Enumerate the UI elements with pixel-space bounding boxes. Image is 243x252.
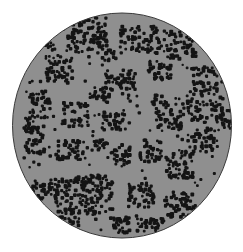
bacterial-cell <box>91 134 94 137</box>
bacterial-cell <box>147 201 151 205</box>
bacterial-cell <box>121 118 124 121</box>
bacterial-cell <box>54 197 58 201</box>
bacterial-cell <box>43 116 47 120</box>
bacterial-cell <box>129 81 133 85</box>
bacterial-cell <box>202 136 206 140</box>
bacterial-cell <box>132 202 135 205</box>
bacterial-cell <box>152 218 155 221</box>
bacterial-cell <box>176 115 180 119</box>
bacterial-cell <box>138 35 142 39</box>
bacterial-cell <box>94 92 97 95</box>
bacterial-cell <box>105 115 109 119</box>
bacterial-cell <box>62 66 65 69</box>
bacterial-cell <box>104 24 107 27</box>
bacterial-cell <box>51 231 54 234</box>
bacterial-cell <box>180 157 183 160</box>
bacterial-cell <box>48 69 51 72</box>
bacterial-cell <box>220 109 224 113</box>
bacterial-cell <box>146 184 149 187</box>
bacterial-cell <box>84 209 88 213</box>
bacterial-cell <box>96 188 99 191</box>
bacterial-cell <box>122 109 125 112</box>
bacterial-cell <box>27 127 31 131</box>
bacterial-cell <box>160 95 164 99</box>
bacterial-cell <box>57 144 61 148</box>
bacterial-cell <box>57 140 61 144</box>
bacterial-cell <box>119 32 123 35</box>
bacterial-cell <box>120 80 123 83</box>
bacterial-cell <box>194 216 197 219</box>
bacterial-cell <box>179 34 183 38</box>
bacterial-cell <box>51 182 54 185</box>
bacterial-cell <box>128 187 131 190</box>
bacterial-cell <box>54 60 57 63</box>
bacterial-cell <box>153 222 157 226</box>
bacterial-cell <box>72 28 75 31</box>
bacterial-cell <box>194 147 197 150</box>
bacterial-cell <box>104 17 107 20</box>
bacterial-cell <box>48 55 51 58</box>
bacterial-cell <box>210 149 213 152</box>
bacterial-cell <box>198 108 201 111</box>
bacterial-cell <box>34 199 38 203</box>
bacterial-cell <box>70 35 73 38</box>
bacterial-cell <box>144 38 147 41</box>
bacterial-cell <box>196 184 199 187</box>
bacterial-cell <box>104 73 107 76</box>
bacterial-cell <box>132 77 135 80</box>
bacterial-cell <box>149 217 152 220</box>
bacterial-cell <box>215 109 218 112</box>
bacterial-cell <box>124 48 127 51</box>
bacterial-cell <box>64 192 68 196</box>
bacterial-cell <box>102 111 106 115</box>
bacterial-cell <box>144 199 147 202</box>
bacterial-cell <box>38 152 41 155</box>
bacterial-cell <box>190 119 193 122</box>
bacterial-cell <box>142 32 145 35</box>
bacterial-cell <box>75 19 79 23</box>
bacterial-cell <box>205 74 208 77</box>
bacterial-cell <box>76 141 79 144</box>
bacterial-cell <box>114 163 117 166</box>
bacterial-cell <box>155 219 158 222</box>
bacterial-cell <box>31 80 34 83</box>
bacterial-cell <box>177 177 180 180</box>
bacterial-cell <box>144 138 148 142</box>
bacterial-cell <box>79 105 82 108</box>
bacterial-cell <box>68 207 72 211</box>
bacterial-cell <box>169 112 173 116</box>
bacterial-cell <box>82 150 85 153</box>
bacterial-cell <box>194 181 196 183</box>
bacterial-cell <box>143 206 146 209</box>
bacterial-cell <box>62 26 65 29</box>
bacterial-cell <box>174 97 177 100</box>
bacterial-cell <box>54 76 57 79</box>
bacterial-cell <box>191 217 194 220</box>
bacterial-cell <box>165 44 168 47</box>
bacterial-cell <box>111 182 114 185</box>
bacterial-cell <box>75 206 78 209</box>
bacterial-cell <box>147 43 150 46</box>
bacterial-cell <box>190 160 193 163</box>
bacterial-cell <box>135 49 138 52</box>
bacterial-cell <box>202 104 205 107</box>
bacterial-cell <box>199 150 202 153</box>
bacterial-cell <box>49 154 53 158</box>
bacterial-cell <box>179 198 182 201</box>
bacterial-cell <box>167 163 170 166</box>
bacterial-cell <box>143 160 146 163</box>
bacterial-cell <box>188 146 191 149</box>
bacterial-cell <box>164 121 167 124</box>
bacterial-cell <box>107 93 111 97</box>
bacterial-cell <box>133 198 136 201</box>
bacterial-cell <box>139 151 142 154</box>
bacterial-cell <box>189 216 192 219</box>
bacterial-cell <box>49 41 52 44</box>
bacterial-cell <box>49 178 52 181</box>
bacterial-cell <box>85 198 88 201</box>
bacterial-cell <box>182 191 185 194</box>
bacterial-cell <box>199 103 202 106</box>
bacterial-cell <box>175 162 179 166</box>
bacterial-cell <box>150 37 153 40</box>
bacterial-cell <box>184 200 187 203</box>
